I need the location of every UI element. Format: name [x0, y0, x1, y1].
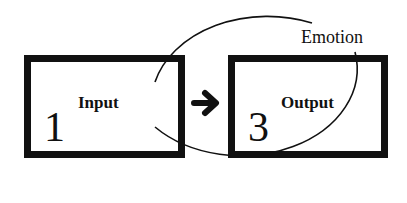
output-label: Output: [281, 94, 334, 111]
output-step-number: 3: [248, 106, 269, 148]
right-arrow-icon: [191, 88, 221, 118]
input-label: Input: [78, 94, 119, 111]
input-step-number: 1: [44, 106, 65, 148]
emotion-label: Emotion: [299, 28, 365, 46]
